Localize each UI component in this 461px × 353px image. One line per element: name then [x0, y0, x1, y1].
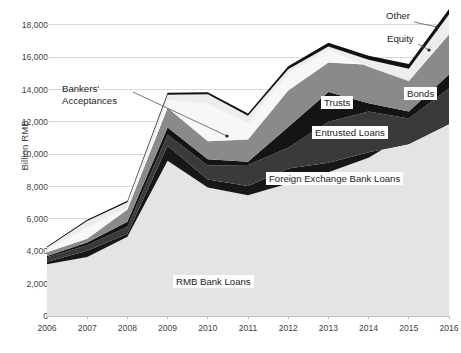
- label-trusts: Trusts: [321, 96, 353, 109]
- label-bankers-acceptances: Bankers' Acceptances: [62, 83, 117, 107]
- label-rmb-bank-loans: RMB Bank Loans: [173, 275, 254, 288]
- label-bonds: Bonds: [404, 87, 437, 100]
- label-entrusted-loans: Entrusted Loans: [312, 126, 388, 139]
- label-bankers-acceptances-line2: Acceptances: [62, 95, 117, 107]
- label-bankers-acceptances-line1: Bankers': [62, 83, 117, 95]
- label-equity: Equity: [387, 33, 414, 44]
- chart-root: Billion RMB 02,0004,0006,0008,00010,0001…: [0, 0, 461, 353]
- label-other: Other: [386, 10, 410, 21]
- label-foreign-exchange-bank-loans: Foreign Exchange Bank Loans: [266, 172, 403, 185]
